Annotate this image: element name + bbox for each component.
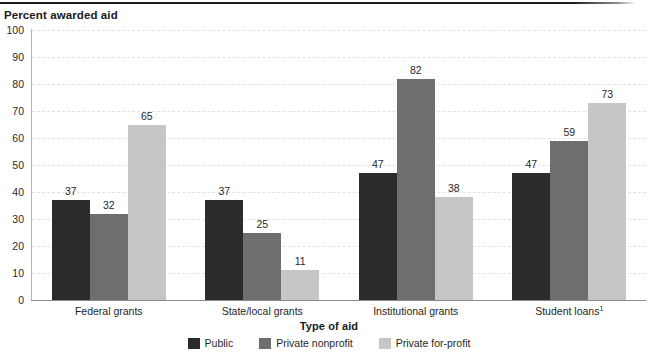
bar [359, 173, 397, 300]
bar [512, 173, 550, 300]
chart-title: Percent awarded aid [4, 9, 118, 21]
bar [52, 200, 90, 300]
legend-swatch-icon [188, 338, 200, 349]
y-axis-tick-label: 80 [0, 78, 24, 90]
bar [550, 141, 588, 300]
legend-swatch-icon [259, 338, 271, 349]
bar-value-label: 47 [372, 158, 384, 170]
plot-area: 373265372511478238475973 [32, 30, 646, 300]
bar [397, 79, 435, 300]
legend-item[interactable]: Private for-profit [379, 337, 471, 349]
bar-value-label: 25 [256, 218, 268, 230]
legend: PublicPrivate nonprofitPrivate for-profi… [0, 337, 658, 349]
y-axis-tick-label: 50 [0, 159, 24, 171]
x-axis-category-label: Institutional grants [373, 305, 458, 317]
y-axis-tick-label: 70 [0, 105, 24, 117]
bar [588, 103, 626, 300]
y-axis-tick-label: 90 [0, 51, 24, 63]
bar-value-label: 59 [563, 126, 575, 138]
bar-value-label: 37 [218, 185, 230, 197]
bar [205, 200, 243, 300]
legend-item-label: Private for-profit [396, 337, 471, 349]
bar [243, 233, 281, 301]
bar [90, 214, 128, 300]
bar-value-label: 82 [410, 64, 422, 76]
x-axis-category-label: State/local grants [222, 305, 303, 317]
y-axis-tick-label: 20 [0, 240, 24, 252]
y-axis-tick-label: 0 [0, 294, 24, 306]
bar-value-label: 73 [601, 88, 613, 100]
bar-value-label: 65 [141, 110, 153, 122]
bar-value-label: 38 [448, 182, 460, 194]
x-axis-title: Type of aid [0, 320, 658, 332]
bar [128, 125, 166, 301]
y-axis-tick-label: 30 [0, 213, 24, 225]
y-axis-tick-label: 100 [0, 24, 24, 36]
bar [435, 197, 473, 300]
bar-value-label: 47 [525, 158, 537, 170]
bar-value-label: 11 [295, 255, 306, 267]
legend-item-label: Private nonprofit [276, 337, 352, 349]
y-axis-tick-label: 10 [0, 267, 24, 279]
bar [281, 270, 319, 300]
legend-item[interactable]: Private nonprofit [259, 337, 352, 349]
legend-item[interactable]: Public [188, 337, 234, 349]
bar-value-label: 32 [103, 199, 115, 211]
footnote-marker: 1 [599, 305, 603, 312]
legend-swatch-icon [379, 338, 391, 349]
x-axis-line [31, 300, 646, 301]
y-axis-tick-label: 40 [0, 186, 24, 198]
legend-item-label: Public [205, 337, 234, 349]
y-axis-tick-label: 60 [0, 132, 24, 144]
bar-value-label: 37 [65, 185, 77, 197]
top-rule [0, 2, 636, 4]
x-axis-category-label: Federal grants [75, 305, 143, 317]
x-axis-category-label: Student loans1 [535, 305, 603, 317]
